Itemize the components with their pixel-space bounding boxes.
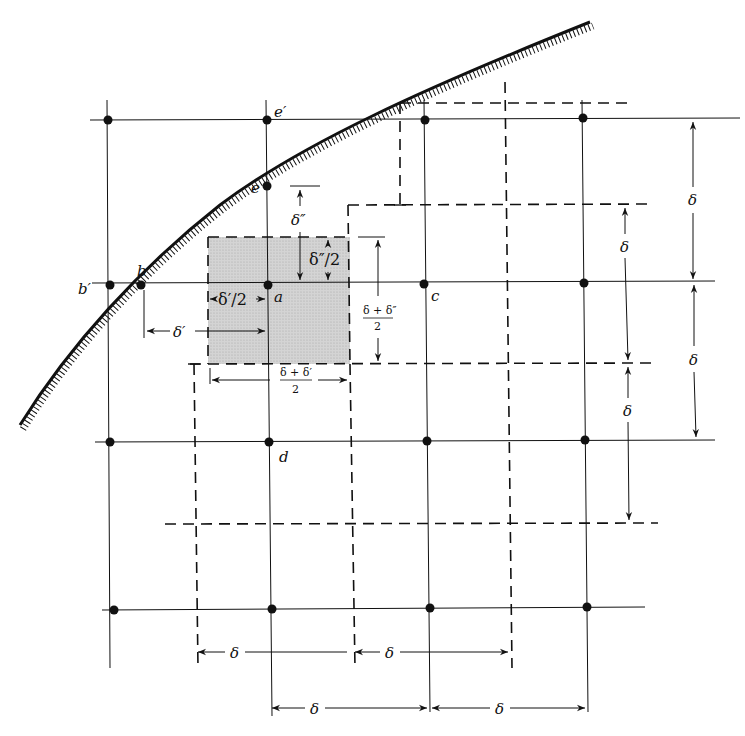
dim-frac-dprime-num: δ + δ″ — [363, 304, 397, 317]
dim-delta-bottom-3: δ — [310, 700, 319, 718]
dim-delta-prime: δ′ — [173, 323, 186, 341]
dim-delta-dprime-half: δ″/2 — [309, 250, 340, 269]
dim-delta-bottom-2: δ — [385, 644, 394, 662]
dim-delta-right-inner-bottom: δ — [623, 402, 632, 420]
dim-delta-bottom-4: δ — [495, 700, 504, 718]
dashed-cell-lines — [165, 82, 658, 668]
dim-delta-dprime: δ″ — [291, 211, 306, 229]
label-e: e — [251, 179, 260, 197]
boundary-grid-diagram: e′ e b′ b a c d — [0, 0, 745, 736]
dim-frac-dprime-den: 2 — [374, 320, 381, 333]
dim-delta-prime-half: δ′/2 — [218, 290, 247, 309]
label-d: d — [279, 448, 289, 466]
dim-delta-right-inner-top: δ — [620, 238, 629, 256]
label-a: a — [274, 288, 283, 306]
dim-delta-right-outer-top: δ — [688, 191, 697, 209]
dimension-lines — [144, 122, 696, 708]
label-c: c — [431, 287, 440, 305]
solid-grid — [90, 100, 740, 716]
label-b: b — [137, 262, 147, 280]
dim-frac-prime-den: 2 — [292, 383, 299, 396]
dim-frac-prime-num: δ + δ′ — [280, 366, 312, 379]
label-b-prime: b′ — [78, 280, 92, 298]
dim-delta-bottom-1: δ — [230, 644, 239, 662]
dim-delta-right-outer-bottom: δ — [689, 351, 698, 369]
label-e-prime: e′ — [274, 103, 287, 121]
